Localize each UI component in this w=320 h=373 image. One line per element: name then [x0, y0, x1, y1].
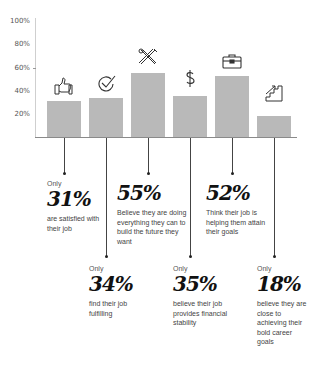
callout-financial-stability: Only 35% believe their job provides fina… [173, 265, 245, 328]
bar-attain-goals [215, 76, 249, 137]
y-axis [35, 18, 36, 138]
connector-dot [189, 255, 192, 258]
callout-description: Think their job is helping them attain t… [206, 208, 268, 237]
callout-prefix: Only [257, 265, 309, 272]
y-tick-100: 100% [0, 17, 30, 25]
dollar-icon [179, 70, 201, 88]
callout-percentage: 52% [206, 182, 268, 204]
connector-line [190, 138, 191, 256]
callout-building-future: 55% Believe they are doing everything th… [117, 182, 189, 246]
connector-line [148, 138, 149, 173]
y-tick-60: 60% [0, 64, 30, 72]
bar-career-goals [257, 116, 291, 137]
tools-icon [137, 48, 159, 66]
connector-dot [231, 172, 234, 175]
bar-financial-stability [173, 96, 207, 137]
checkmark-icon [96, 74, 118, 92]
callout-description: believe they are close to achieving thei… [257, 299, 309, 347]
bar-building-future [131, 73, 165, 137]
callout-description: are satisfied with their job [47, 214, 107, 233]
callout-prefix: Only [89, 265, 151, 272]
connector-dot [63, 172, 66, 175]
callout-fulfilling: Only 34% find their job fulfilling [89, 265, 151, 318]
callout-description: believe their job provides financial sta… [173, 299, 245, 328]
bar-fulfilling [89, 98, 123, 137]
callout-percentage: 18% [257, 273, 309, 295]
callout-percentage: 35% [173, 273, 245, 295]
thumbs-up-icon [52, 77, 74, 95]
connector-dot [105, 255, 108, 258]
stairs-arrow-icon [263, 84, 285, 102]
y-tick-40: 40% [0, 87, 30, 95]
connector-dot [147, 172, 150, 175]
callout-career-goals: Only 18% believe they are close to achie… [257, 265, 309, 347]
callout-description: Believe they are doing everything they c… [117, 208, 189, 246]
x-axis-baseline [35, 137, 297, 138]
connector-dot [273, 255, 276, 258]
callout-prefix: Only [47, 180, 107, 187]
callout-percentage: 55% [117, 182, 189, 204]
callout-percentage: 31% [47, 188, 107, 210]
callout-prefix: Only [173, 265, 245, 272]
callout-percentage: 34% [89, 273, 151, 295]
y-tick-20: 20% [0, 110, 30, 118]
callout-description: find their job fulfilling [89, 299, 151, 318]
briefcase-icon [221, 52, 243, 70]
callout-satisfied: Only 31% are satisfied with their job [47, 180, 107, 233]
connector-line [274, 138, 275, 256]
y-tick-80: 80% [0, 40, 30, 48]
connector-line [64, 138, 65, 173]
y-tick-mark [33, 68, 36, 69]
callout-attain-goals: 52% Think their job is helping them atta… [206, 182, 268, 237]
connector-line [232, 138, 233, 173]
bar-satisfied [47, 101, 81, 137]
